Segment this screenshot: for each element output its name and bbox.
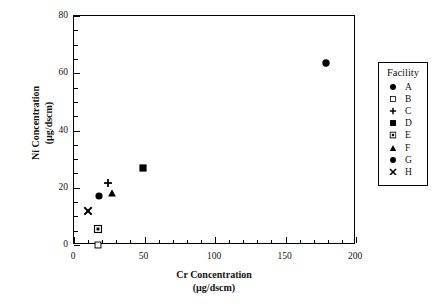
x-axis-minor-tick bbox=[159, 240, 160, 244]
scatter-plot-figure: 050100150200 020406080 Cr Concentration … bbox=[0, 0, 439, 305]
x-tick-label: 100 bbox=[194, 251, 234, 261]
y-axis-minor-tick bbox=[74, 159, 78, 160]
marker-filled-diamond-icon bbox=[389, 83, 396, 90]
legend-entry-a[interactable]: A bbox=[379, 81, 427, 93]
plot-frame bbox=[73, 15, 355, 244]
x-tick-label: 50 bbox=[124, 251, 164, 261]
y-axis-minor-tick bbox=[74, 59, 78, 60]
y-axis-minor-tick bbox=[74, 116, 78, 117]
legend-label: D bbox=[400, 118, 412, 128]
y-axis-title: Ni Concentration (µg/dscm) bbox=[29, 13, 55, 233]
x-axis-minor-tick bbox=[130, 240, 131, 244]
y-axis-minor-tick bbox=[74, 202, 78, 203]
y-axis-title-line2: (µg/dscm) bbox=[42, 13, 55, 233]
legend-label: E bbox=[400, 130, 411, 140]
legend-marker-b bbox=[386, 93, 400, 105]
legend-title: Facility bbox=[379, 63, 427, 81]
x-tick-label: 0 bbox=[53, 251, 93, 261]
legend-box: Facility ABCDEFGH bbox=[378, 62, 428, 186]
y-axis-minor-tick bbox=[74, 30, 78, 31]
marker-square-with-dot-icon bbox=[389, 132, 396, 139]
plot-data-area bbox=[74, 16, 354, 243]
marker-filled-square-icon bbox=[139, 158, 148, 175]
legend-label: G bbox=[400, 155, 412, 165]
y-tick-label: 0 bbox=[28, 239, 68, 249]
legend-label: A bbox=[400, 82, 412, 92]
x-axis-minor-tick bbox=[102, 240, 103, 244]
x-axis-minor-tick bbox=[173, 240, 174, 244]
marker-open-square-icon bbox=[94, 235, 102, 252]
legend-label: B bbox=[400, 94, 411, 104]
legend-marker-h bbox=[386, 166, 400, 178]
data-point-e bbox=[93, 225, 102, 234]
legend-label: F bbox=[400, 143, 410, 153]
marker-filled-diamond-icon bbox=[322, 54, 331, 71]
data-point-f bbox=[108, 189, 117, 198]
y-axis-minor-tick bbox=[74, 173, 78, 174]
y-axis-title-line1: Ni Concentration bbox=[29, 13, 42, 233]
marker-x-cross-icon bbox=[389, 168, 397, 176]
legend-marker-c bbox=[386, 105, 400, 117]
x-axis-title: Cr Concentration (µg/dscm) bbox=[73, 268, 355, 294]
marker-filled-triangle-icon bbox=[108, 184, 117, 201]
legend-marker-d bbox=[386, 117, 400, 129]
y-axis-minor-tick bbox=[74, 145, 78, 146]
legend-marker-f bbox=[386, 142, 400, 154]
legend-entry-c[interactable]: C bbox=[379, 105, 427, 117]
x-axis-minor-tick bbox=[314, 240, 315, 244]
legend-entry-g[interactable]: G bbox=[379, 154, 427, 166]
x-axis-major-tick bbox=[286, 237, 287, 243]
y-axis-major-tick bbox=[74, 16, 80, 17]
marker-filled-circle-icon bbox=[389, 156, 396, 163]
x-axis-minor-tick bbox=[328, 240, 329, 244]
y-axis-major-tick bbox=[74, 131, 80, 132]
y-axis-major-tick bbox=[74, 245, 80, 246]
x-axis-minor-tick bbox=[116, 240, 117, 244]
x-axis-minor-tick bbox=[187, 240, 188, 244]
x-axis-title-line2: (µg/dscm) bbox=[73, 281, 355, 294]
marker-filled-circle-icon bbox=[95, 187, 104, 204]
legend-marker-g bbox=[386, 154, 400, 166]
y-axis-major-tick bbox=[74, 73, 80, 74]
x-axis-minor-tick bbox=[342, 240, 343, 244]
y-axis-minor-tick bbox=[74, 88, 78, 89]
data-point-a bbox=[322, 59, 331, 68]
legend-entry-f[interactable]: F bbox=[379, 141, 427, 153]
x-axis-minor-tick bbox=[229, 240, 230, 244]
x-axis-minor-tick bbox=[243, 240, 244, 244]
marker-filled-square-icon bbox=[389, 120, 396, 127]
x-axis-minor-tick bbox=[88, 240, 89, 244]
data-point-d bbox=[139, 163, 148, 172]
y-axis-minor-tick bbox=[74, 216, 78, 217]
x-axis-major-tick bbox=[215, 237, 216, 243]
legend-entry-h[interactable]: H bbox=[379, 166, 427, 178]
x-axis-major-tick bbox=[145, 237, 146, 243]
legend-marker-e bbox=[386, 129, 400, 141]
legend-label: C bbox=[400, 106, 411, 116]
y-axis-major-tick bbox=[74, 188, 80, 189]
x-axis-minor-tick bbox=[300, 240, 301, 244]
data-point-b bbox=[94, 241, 102, 249]
marker-x-cross-icon bbox=[83, 201, 93, 218]
data-point-h bbox=[83, 206, 93, 216]
x-tick-label: 150 bbox=[265, 251, 305, 261]
legend-entry-e[interactable]: E bbox=[379, 129, 427, 141]
marker-open-square-icon bbox=[390, 96, 397, 103]
data-point-g bbox=[95, 192, 104, 201]
x-axis-major-tick bbox=[356, 237, 357, 243]
marker-plus-icon bbox=[389, 108, 396, 115]
y-axis-minor-tick bbox=[74, 45, 78, 46]
y-axis-minor-tick bbox=[74, 231, 78, 232]
legend-entry-group: ABCDEFGH bbox=[379, 81, 427, 178]
marker-square-with-dot-icon bbox=[93, 220, 102, 237]
x-axis-title-line1: Cr Concentration bbox=[73, 268, 355, 281]
legend-entry-b[interactable]: B bbox=[379, 93, 427, 105]
x-axis-minor-tick bbox=[201, 240, 202, 244]
x-axis-major-tick bbox=[74, 237, 75, 243]
x-axis-minor-tick bbox=[257, 240, 258, 244]
x-tick-label: 200 bbox=[335, 251, 375, 261]
legend-marker-a bbox=[386, 81, 400, 93]
y-axis-minor-tick bbox=[74, 102, 78, 103]
marker-filled-triangle-icon bbox=[389, 144, 396, 151]
legend-entry-d[interactable]: D bbox=[379, 117, 427, 129]
